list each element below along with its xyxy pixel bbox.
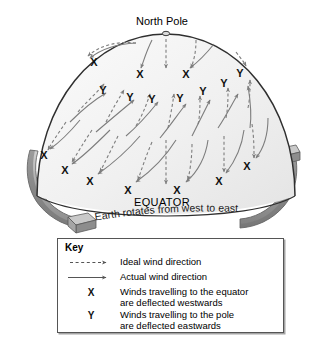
key-row-ideal-wind: Ideal wind direction xyxy=(65,257,201,268)
earth-dome xyxy=(37,31,295,216)
wind-marker-x: X xyxy=(90,57,97,68)
key-row-y-marker: Y Winds travelling to the poleare deflec… xyxy=(65,310,234,331)
key-row-x-marker: X Winds travelling to the equatorare def… xyxy=(65,287,248,308)
y-marker-icon: Y xyxy=(65,310,117,321)
wind-marker-y: Y xyxy=(148,94,155,105)
key-title: Key xyxy=(65,242,83,253)
north-pole-marker xyxy=(162,31,169,35)
wind-marker-y: Y xyxy=(126,92,133,103)
north-pole-label: North Pole xyxy=(0,15,324,27)
wind-marker-x: X xyxy=(124,185,131,196)
key-label-x-marker: Winds travelling to the equatorare defle… xyxy=(117,287,248,308)
wind-marker-y: Y xyxy=(220,78,227,89)
key-row-actual-wind: Actual wind direction xyxy=(65,272,207,283)
x-marker-icon: X xyxy=(65,287,117,298)
wind-marker-y: Y xyxy=(176,93,183,104)
wind-marker-x: X xyxy=(86,176,93,187)
wind-marker-x: X xyxy=(61,165,68,176)
wind-marker-x: X xyxy=(215,176,222,187)
key-label-y-marker: Winds travelling to the poleare deflecte… xyxy=(117,310,234,331)
key-legend-box: Key Ideal wind direction Actual wind dir… xyxy=(57,238,284,333)
wind-marker-y: Y xyxy=(236,68,243,79)
wind-marker-y: Y xyxy=(99,85,106,96)
wind-marker-x: X xyxy=(136,69,143,80)
wind-marker-x: X xyxy=(40,150,47,161)
dashed-arrow-icon xyxy=(65,257,117,268)
wind-marker-x: X xyxy=(243,161,250,172)
solid-arrow-icon xyxy=(65,272,117,283)
key-label-actual-wind: Actual wind direction xyxy=(117,272,207,283)
wind-marker-y: Y xyxy=(199,86,206,97)
wind-marker-x: X xyxy=(182,69,189,80)
coriolis-wind-diagram: Earth rotates from west to east North Po… xyxy=(0,0,324,347)
key-label-ideal-wind: Ideal wind direction xyxy=(117,257,201,268)
wind-marker-x: X xyxy=(173,185,180,196)
equator-label: EQUATOR xyxy=(0,196,324,208)
